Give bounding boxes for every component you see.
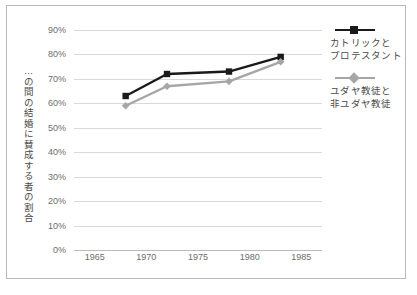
data-point-marker: [122, 93, 128, 99]
y-tick-label: 50%: [48, 123, 66, 133]
data-point-marker: [164, 71, 170, 77]
y-tick-label: 10%: [48, 221, 66, 231]
series-line-0: [126, 57, 281, 96]
y-tick-label: 30%: [48, 172, 66, 182]
series-layer: [74, 30, 322, 250]
y-tick-label: 0%: [53, 245, 66, 255]
x-tick-label: 1965: [85, 252, 105, 262]
y-tick-label: 40%: [48, 147, 66, 157]
data-point-marker: [226, 68, 232, 74]
y-axis-tick-labels: 0%10%20%30%40%50%60%70%80%90%: [0, 30, 70, 250]
x-tick-label: 1980: [240, 252, 260, 262]
legend-swatch-diamond-icon: [335, 72, 375, 83]
y-tick-label: 80%: [48, 49, 66, 59]
data-point-marker: [122, 102, 130, 110]
legend-swatch-square-icon: [335, 24, 375, 35]
legend-label-line-1: カトリックと: [330, 37, 410, 50]
plot-area: [74, 30, 322, 250]
x-axis-line: [74, 250, 322, 251]
data-point-marker: [225, 78, 233, 86]
x-axis-tick-labels: 19651970197519801985: [74, 252, 322, 268]
legend-label-line-2: プロテスタント: [330, 50, 410, 63]
y-tick-label: 90%: [48, 25, 66, 35]
y-tick-label: 60%: [48, 98, 66, 108]
legend-label-line-2: 非ユダヤ教徒: [330, 98, 410, 111]
y-tick-label: 20%: [48, 196, 66, 206]
x-tick-label: 1975: [188, 252, 208, 262]
chart-figure: …の間の結婚に賛成する者の割合 0%10%20%30%40%50%60%70%8…: [0, 0, 417, 295]
legend-label-jews-nonjews: ユダヤ教徒と 非ユダヤ教徒: [330, 85, 410, 110]
x-tick-label: 1970: [136, 252, 156, 262]
chart-legend: カトリックと プロテスタント ユダヤ教徒と 非ユダヤ教徒: [330, 24, 410, 120]
x-tick-label: 1985: [291, 252, 311, 262]
y-tick-label: 70%: [48, 74, 66, 84]
legend-label-catholics-protestants: カトリックと プロテスタント: [330, 37, 410, 62]
legend-entry-catholics-protestants: カトリックと プロテスタント: [330, 24, 410, 62]
legend-entry-jews-nonjews: ユダヤ教徒と 非ユダヤ教徒: [330, 72, 410, 110]
data-point-marker: [163, 82, 171, 90]
legend-label-line-1: ユダヤ教徒と: [330, 85, 410, 98]
